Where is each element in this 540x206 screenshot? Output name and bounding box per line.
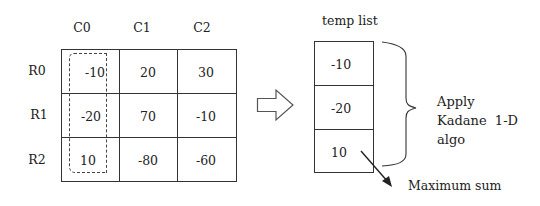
- matrix-cell-r2-c1: -80: [119, 138, 177, 182]
- kadane-annotation: Apply Kadane 1-D algo: [437, 92, 518, 149]
- row-header-r2: R2: [22, 152, 52, 167]
- column-header-c1: C1: [122, 20, 162, 35]
- temp-list-item-1: -20: [315, 86, 373, 130]
- matrix-cell-r1-c2: -10: [177, 94, 235, 138]
- temp-list-title: temp list: [322, 13, 378, 28]
- matrix-cell-r2-c2: -60: [177, 138, 235, 182]
- column-highlight-dashed-box: [69, 53, 107, 173]
- matrix-cell-r0-c1: 20: [119, 50, 177, 94]
- right-arrow-icon: [256, 88, 296, 122]
- row-header-r0: R0: [22, 63, 52, 78]
- column-header-c0: C0: [62, 20, 102, 35]
- row-header-r1: R1: [24, 107, 54, 122]
- annotation-line-3: algo: [437, 130, 518, 149]
- annotation-line-1: Apply: [437, 92, 518, 111]
- pointer-arrow-icon: [358, 148, 398, 192]
- matrix-cell-r0-c2: 30: [177, 50, 235, 94]
- maximum-sum-label: Maximum sum: [408, 178, 501, 193]
- temp-list-item-0: -10: [315, 42, 373, 86]
- column-header-c2: C2: [182, 20, 222, 35]
- annotation-line-2: Kadane 1-D: [437, 111, 518, 130]
- matrix-cell-r1-c1: 70: [119, 94, 177, 138]
